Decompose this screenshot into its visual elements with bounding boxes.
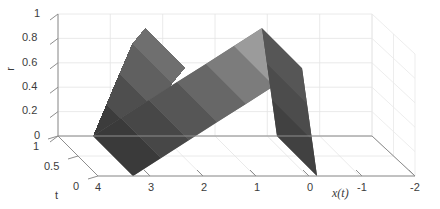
t-tick-label-0_5: 0.5: [44, 160, 59, 172]
t-tick-label-0: 0: [73, 180, 79, 192]
surface-plot-figure: 1 0.8 0.6 0.4 0.2 0 1 0.5 0 4 3 2 1 0 -1…: [0, 0, 440, 209]
x-tick-label-3: 3: [148, 181, 154, 193]
r-tick-label-1: 1: [34, 7, 40, 19]
x-tick-label-0: 0: [307, 181, 313, 193]
r-axis-label: r: [4, 67, 16, 71]
x-tick-label-2: 2: [201, 181, 207, 193]
r-tick-label-0_6: 0.6: [22, 56, 37, 68]
x-tick-label-neg1: -1: [357, 181, 367, 193]
x-tick-label-1: 1: [254, 181, 260, 193]
r-tick-label-0_8: 0.8: [22, 31, 37, 43]
r-tick-label-0_4: 0.4: [22, 80, 37, 92]
r-tick-label-0_2: 0.2: [22, 104, 37, 116]
plot-canvas: [0, 0, 440, 209]
r-axis-ticks: [50, 14, 58, 142]
x-axis-label: x(t): [332, 186, 349, 201]
right-wall-gridlines: [372, 14, 415, 176]
x-tick-label-neg2: -2: [410, 181, 420, 193]
t-axis-label: t: [55, 189, 58, 201]
t-tick-label-1: 1: [33, 140, 39, 152]
x-tick-label-4: 4: [95, 181, 101, 193]
t-axis-ticks: [48, 136, 98, 179]
surface-right-bands: [262, 28, 317, 176]
